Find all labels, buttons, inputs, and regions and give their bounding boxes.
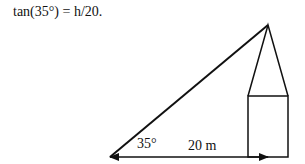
base-length-label: 20 m [188, 138, 217, 153]
triangle-building-diagram: 35° 20 m [0, 0, 305, 164]
angle-label: 35° [137, 136, 157, 151]
building-body [248, 96, 288, 157]
